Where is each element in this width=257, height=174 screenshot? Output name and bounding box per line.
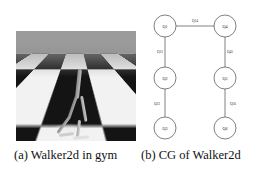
graph-node-layer: Q1Q4Q2Q5Q3Q6 [154, 15, 236, 139]
graph-edge-label: Q56 [230, 102, 236, 106]
front-thigh-segment [80, 96, 87, 122]
graph-node-label: Q3 [162, 126, 167, 131]
walker2d-render-panel [16, 31, 136, 141]
graph-node-label: Q4 [222, 24, 228, 29]
walker2d-body [62, 69, 96, 137]
caption-panel-b: (b) CG of Walker2d [141, 146, 241, 164]
torso-segment [75, 69, 82, 99]
graph-node-label: Q1 [162, 24, 167, 29]
caption-row: (a) Walker2d in gym (b) CG of Walker2d [0, 146, 257, 166]
caption-panel-a: (a) Walker2d in gym [14, 146, 117, 164]
mujoco-viewport [16, 31, 136, 141]
graph-edge-label: Q14 [192, 19, 198, 23]
graph-node-label: Q2 [162, 76, 167, 81]
graph-node-label: Q5 [222, 76, 227, 81]
computation-graph-svg: Q1Q4Q2Q5Q3Q6 Q14Q12Q45Q23Q56 [143, 6, 257, 141]
back-foot-segment [59, 132, 74, 137]
horizon-band [16, 31, 136, 53]
graph-edge-label: Q23 [154, 102, 160, 106]
graph-node-label: Q6 [222, 126, 227, 131]
graph-edge-label: Q45 [227, 50, 233, 54]
graph-edge-label: Q12 [157, 50, 163, 54]
figure-container: Q1Q4Q2Q5Q3Q6 Q14Q12Q45Q23Q56 (a) Walker2… [0, 0, 257, 174]
computation-graph-panel: Q1Q4Q2Q5Q3Q6 Q14Q12Q45Q23Q56 [143, 6, 257, 141]
